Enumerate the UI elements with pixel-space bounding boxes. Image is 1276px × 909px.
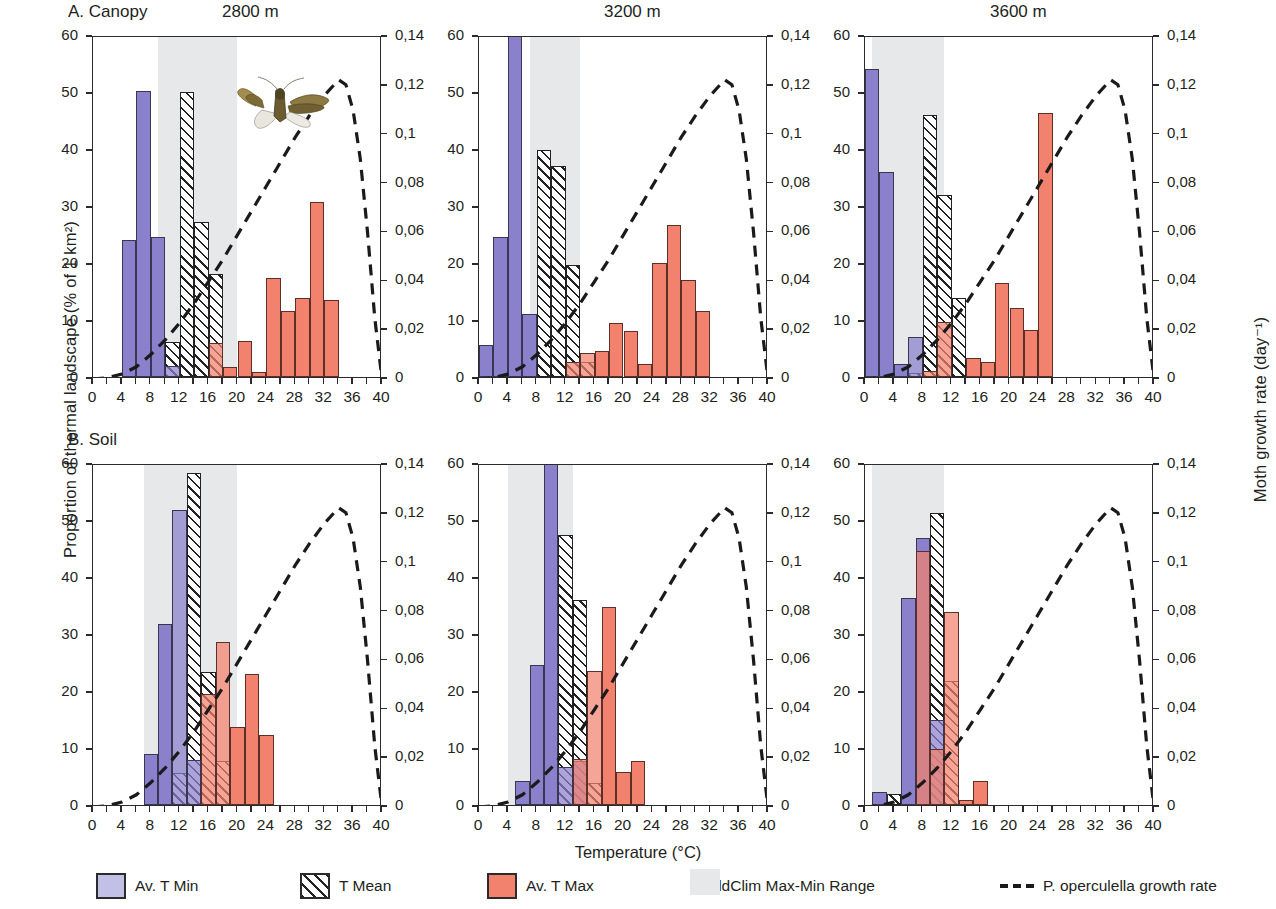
y-tick-label-right: 0,12 (1167, 75, 1196, 92)
y-tick-right (767, 328, 773, 329)
y-tick-label-left: 30 (806, 197, 850, 214)
x-tick (323, 378, 324, 384)
y-tick-label-left: 0 (34, 368, 78, 385)
y-tick-label-right: 0,1 (1167, 552, 1188, 569)
y-axis-label-right: Moth growth rate (day⁻¹) (1251, 150, 1270, 670)
y-tick-label-left: 30 (420, 625, 464, 642)
x-tick (723, 378, 724, 384)
y-tick-label-left: 10 (420, 739, 464, 756)
y-tick-label-left: 10 (806, 739, 850, 756)
x-tick-label: 40 (361, 388, 401, 406)
y-tick-label-left: 50 (34, 83, 78, 100)
x-tick (694, 378, 695, 384)
x-tick-label: 40 (1133, 388, 1173, 406)
y-tick-right (767, 182, 773, 183)
x-tick (651, 806, 652, 812)
x-tick (1138, 806, 1139, 812)
y-tick-label-right: 0,08 (395, 601, 424, 618)
x-tick (550, 378, 551, 384)
y-tick-right (381, 231, 387, 232)
y-tick-label-right: 0,04 (1167, 270, 1196, 287)
legend-swatch-worldclim-range (690, 869, 720, 895)
x-tick (477, 806, 478, 812)
x-tick (622, 806, 623, 812)
y-tick-label-left: 60 (420, 26, 464, 43)
y-tick-right (767, 805, 773, 806)
x-tick (936, 378, 937, 384)
growth-rate-curve (93, 465, 381, 806)
y-tick-right (381, 377, 387, 378)
plot-area (864, 36, 1153, 378)
x-tick (892, 378, 893, 384)
column-title-3200: 3200 m (604, 2, 661, 22)
y-tick-label-left: 20 (420, 254, 464, 271)
panel-row-label-b: B. Soil (68, 430, 117, 450)
y-tick-left (858, 748, 864, 749)
x-tick (1152, 378, 1153, 384)
chart-panel-a2: 010203040506000,020,040,060,080,10,120,1… (478, 36, 767, 378)
y-tick-label-left: 0 (34, 796, 78, 813)
y-tick-label-left: 0 (806, 368, 850, 385)
x-tick (149, 806, 150, 812)
x-tick (1022, 378, 1023, 384)
y-tick-label-left: 10 (34, 311, 78, 328)
x-tick (907, 378, 908, 384)
legend: Av. T Min T Mean Av. T Max WorldClim Max… (0, 869, 1276, 909)
x-tick (265, 806, 266, 812)
x-tick (936, 806, 937, 812)
legend-item-t-mean: T Mean (300, 869, 391, 903)
y-tick-label-right: 0,1 (781, 552, 802, 569)
y-tick-right (1153, 561, 1159, 562)
x-tick (1080, 806, 1081, 812)
x-tick (1152, 806, 1153, 812)
y-tick-right (1153, 463, 1159, 464)
x-tick (135, 806, 136, 812)
x-tick (636, 378, 637, 384)
x-tick (1037, 378, 1038, 384)
y-tick-left (858, 149, 864, 150)
x-tick (964, 378, 965, 384)
x-tick (337, 806, 338, 812)
x-tick (1066, 806, 1067, 812)
x-tick (665, 378, 666, 384)
x-tick-label: 40 (361, 816, 401, 834)
y-tick-right (767, 280, 773, 281)
y-tick-label-left: 40 (34, 140, 78, 157)
y-tick-left (86, 577, 92, 578)
y-tick-right (381, 805, 387, 806)
y-tick-label-left: 60 (34, 454, 78, 471)
chart-panel-b3: 010203040506000,020,040,060,080,10,120,1… (864, 464, 1153, 806)
y-tick-right (381, 182, 387, 183)
y-tick-label-right: 0,06 (1167, 649, 1196, 666)
legend-label-t-mean: T Mean (339, 877, 391, 895)
x-tick (993, 378, 994, 384)
y-tick-label-right: 0,08 (1167, 173, 1196, 190)
x-tick (1109, 378, 1110, 384)
legend-swatch-t-mean (300, 873, 330, 899)
x-tick (709, 806, 710, 812)
y-tick-right (381, 328, 387, 329)
y-tick-label-left: 30 (34, 625, 78, 642)
y-tick-label-left: 40 (806, 140, 850, 157)
x-tick (1080, 378, 1081, 384)
y-tick-right (381, 708, 387, 709)
x-tick (192, 806, 193, 812)
y-tick-label-left: 40 (420, 140, 464, 157)
y-tick-right (767, 463, 773, 464)
y-tick-right (1153, 328, 1159, 329)
x-tick (506, 806, 507, 812)
y-tick-left (472, 263, 478, 264)
y-tick-right (1153, 133, 1159, 134)
y-tick-right (1153, 280, 1159, 281)
y-tick-label-right: 0,06 (395, 649, 424, 666)
y-tick-left (472, 634, 478, 635)
y-tick-right (381, 561, 387, 562)
y-tick-right (767, 512, 773, 513)
y-tick-label-left: 60 (420, 454, 464, 471)
x-tick (1095, 806, 1096, 812)
x-tick (907, 806, 908, 812)
x-tick (564, 378, 565, 384)
x-tick (91, 378, 92, 384)
y-tick-left (858, 463, 864, 464)
y-tick-right (1153, 708, 1159, 709)
